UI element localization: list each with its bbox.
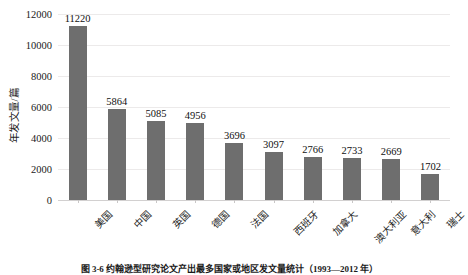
plot-area: 0200040006000800010000120001122058645085… [58,14,450,200]
y-tick-label: 12000 [26,9,52,20]
x-tick-mark [391,200,392,203]
bar-value-label: 11220 [65,13,91,24]
y-tick-label: 8000 [31,71,52,82]
bar: 3696 [225,143,243,200]
bar: 5864 [108,109,126,200]
bar-value-label: 1702 [420,161,441,172]
bar-value-label: 5864 [106,96,127,107]
bar-value-label: 2733 [342,145,363,156]
bar-value-label: 5085 [146,108,167,119]
y-tick-label: 10000 [26,40,52,51]
bar: 1702 [421,174,439,200]
figure-caption: 图 3-6 约翰逊型研究论文产出最多国家或地区发文量统计（1993—2012 年… [0,262,459,275]
gridline [58,14,450,15]
gridline [58,107,450,108]
x-axis-label: 加拿大 [328,206,360,238]
gridline [58,76,450,77]
gridline [58,45,450,46]
bar: 2669 [382,159,400,200]
y-tick-label: 4000 [31,133,52,144]
bar: 4956 [186,123,204,200]
x-axis-label: 德国 [207,206,232,231]
x-axis-label: 西班牙 [289,206,321,238]
x-tick-mark [352,200,353,203]
x-tick-mark [234,200,235,203]
x-tick-mark [195,200,196,203]
x-tick-mark [274,200,275,203]
y-axis-title: 年发文量/篇 [6,61,21,171]
bar-value-label: 2669 [381,146,402,157]
x-tick-mark [117,200,118,203]
x-axis-label: 法国 [246,206,271,231]
bar: 5085 [147,121,165,200]
x-axis-label: 美国 [90,206,115,231]
bar-value-label: 3097 [263,139,284,150]
x-axis-label: 澳大利亚 [370,206,410,246]
bar-value-label: 3696 [224,130,245,141]
y-tick-label: 0 [47,195,52,206]
x-axis-label: 中国 [129,206,154,231]
bar: 2733 [343,158,361,200]
y-tick-label: 2000 [31,164,52,175]
y-tick-label: 6000 [31,102,52,113]
x-axis-label: 瑞士 [442,206,467,231]
x-axis-label: 意大利 [406,206,438,238]
bar-value-label: 4956 [185,110,206,121]
bar: 3097 [265,152,283,200]
x-tick-mark [78,200,79,203]
x-tick-mark [430,200,431,203]
bar: 2766 [304,157,322,200]
bar-value-label: 2766 [302,144,323,155]
x-axis-label: 英国 [168,206,193,231]
bar: 11220 [69,26,87,200]
x-tick-mark [313,200,314,203]
x-tick-mark [156,200,157,203]
